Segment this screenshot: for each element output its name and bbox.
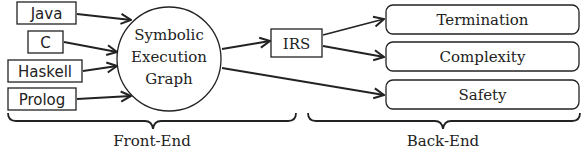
graph-label-line-3: Graph [145, 70, 193, 88]
arrow-graph-to-irs [222, 41, 270, 49]
input-haskell-label: Haskell [18, 63, 72, 81]
irs-node: IRS [271, 29, 322, 57]
arrow-irs-to-termination [323, 19, 384, 35]
output-safety-box: Safety [386, 80, 579, 109]
arrow-graph-to-safety [222, 68, 384, 95]
graph-label-line-2: Execution [131, 48, 207, 66]
output-termination-box: Termination [386, 5, 579, 34]
back-end-label: Back-End [407, 132, 480, 150]
output-termination-label: Termination [436, 11, 528, 29]
input-c-label: C [40, 34, 50, 52]
arrow-haskell-to-graph [83, 66, 117, 71]
output-safety-label: Safety [458, 86, 507, 104]
irs-label: IRS [283, 35, 311, 53]
pipeline-diagram: Java C Haskell Prolog Symbolic Execution… [0, 0, 585, 159]
input-prolog-box: Prolog [8, 88, 76, 110]
arrow-java-to-graph [77, 14, 131, 20]
output-complexity-box: Complexity [386, 42, 579, 71]
input-c-box: C [28, 31, 63, 53]
front-end-label: Front-End [113, 132, 191, 150]
front-end-brace [8, 113, 296, 129]
input-java-label: Java [30, 5, 63, 23]
arrow-prolog-to-graph [77, 96, 131, 99]
input-prolog-label: Prolog [19, 91, 66, 109]
graph-label-line-1: Symbolic [134, 26, 204, 44]
back-end-brace [308, 113, 580, 129]
arrow-c-to-graph [64, 42, 117, 52]
input-java-box: Java [17, 2, 76, 24]
input-haskell-box: Haskell [8, 60, 82, 82]
arrow-irs-to-complexity [323, 46, 384, 57]
output-complexity-label: Complexity [440, 48, 526, 66]
symbolic-execution-graph-node: Symbolic Execution Graph [117, 7, 221, 111]
